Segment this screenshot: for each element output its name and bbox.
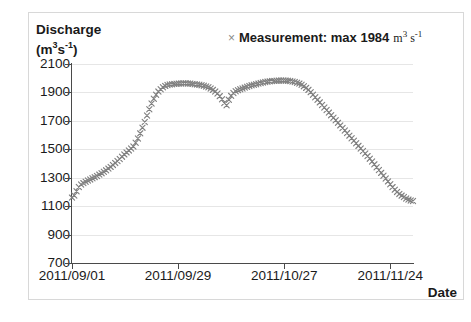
gridline — [72, 235, 413, 236]
legend-unit-prefix: m — [393, 31, 402, 45]
legend: × Measurement: max 1984 m3 s-1 — [228, 29, 422, 46]
gridline — [72, 149, 413, 150]
y-axis-tick-label: 900 — [26, 228, 70, 241]
y-axis-tick-label: 1900 — [26, 85, 70, 98]
legend-label: Measurement: max 1984 — [239, 30, 389, 45]
legend-unit: m3 s-1 — [393, 29, 422, 46]
y-axis-tick-label: 1300 — [26, 171, 70, 184]
x-axis-tick-label: 2011/09/01 — [39, 268, 106, 283]
y-axis-tick-label: 1700 — [26, 114, 70, 127]
y-axis-tick-label: 2100 — [26, 57, 70, 70]
gridline — [72, 206, 413, 207]
gridline — [72, 178, 413, 179]
figure-border — [28, 12, 464, 300]
legend-marker-x-icon: × — [228, 32, 235, 44]
legend-unit-sup1: 3 — [403, 29, 408, 39]
x-axis-line — [71, 263, 414, 264]
gridline — [72, 64, 413, 65]
x-axis-tick-label: 2011/11/24 — [357, 268, 423, 283]
chart-figure: Discharge (m3s-1) × Measurement: max 198… — [0, 0, 471, 322]
legend-unit-sup2: -1 — [415, 29, 423, 39]
gridline — [72, 121, 413, 122]
y-axis-line — [71, 63, 72, 264]
y-axis-unit-suffix: ) — [73, 42, 78, 57]
y-axis-tick-label: 1500 — [26, 142, 70, 155]
x-axis-tick-label: 2011/09/29 — [145, 268, 212, 283]
x-axis-tick-label: 2011/10/27 — [251, 268, 318, 283]
y-axis-tick-label: 1100 — [26, 199, 70, 212]
x-axis-title: Date — [428, 285, 457, 300]
gridline — [72, 92, 413, 93]
